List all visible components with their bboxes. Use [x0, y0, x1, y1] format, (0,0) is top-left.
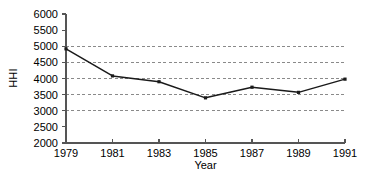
- data-point-marker: [343, 78, 346, 81]
- x-axis-title: Year: [66, 159, 345, 171]
- hhi-line-chart: HHI 200025003000350040004500500055006000…: [0, 0, 373, 185]
- data-point-marker: [111, 74, 114, 77]
- data-point-marker: [157, 80, 160, 83]
- plot-area: [0, 0, 373, 185]
- gridlines: [66, 46, 345, 111]
- data-point-marker: [297, 91, 300, 94]
- data-point-marker: [64, 47, 67, 50]
- data-line-hhi: [66, 49, 345, 98]
- data-point-marker: [250, 86, 253, 89]
- data-point-marker: [204, 96, 207, 99]
